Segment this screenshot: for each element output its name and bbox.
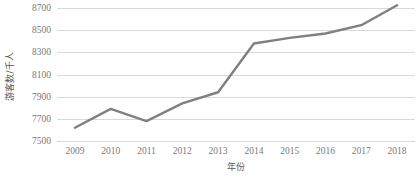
y-axis-tick-label: 8300 [32,47,51,57]
x-axis-tick-label: 2016 [316,145,335,157]
line-chart: 游客数/千人 7500770079008100830085008700 2009… [0,0,420,192]
x-axis-tick-label: 2010 [101,145,120,157]
x-axis-tick-label: 2009 [65,145,84,157]
series-line-tourists [75,5,397,127]
x-axis-tick-label: 2014 [244,145,263,157]
x-axis-title: 年份 [57,160,415,173]
x-axis-tick-labels: 2009201020112012201320142015201620172018 [57,145,415,159]
y-axis-tick-label: 7900 [32,92,51,102]
y-axis-tick-label: 7500 [32,136,51,146]
x-axis-tick-label: 2011 [137,145,156,157]
y-axis-tick-labels: 7500770079008100830085008700 [18,0,54,152]
x-axis-tick-label: 2013 [209,145,228,157]
x-axis-tick-label: 2017 [352,145,371,157]
y-axis-tick-label: 8700 [32,3,51,13]
y-axis-tick-label: 7700 [32,114,51,124]
x-axis-tick-label: 2015 [280,145,299,157]
y-axis-tick-label: 8100 [32,70,51,80]
x-axis-tick-label: 2012 [173,145,192,157]
y-axis-title: 游客数/千人 [0,0,18,152]
series-line-group [57,8,415,141]
plot-area [57,8,415,141]
y-axis-title-label: 游客数/千人 [3,52,16,100]
y-axis-tick-label: 8500 [32,25,51,35]
x-axis-line [57,141,415,142]
x-axis-tick-label: 2018 [388,145,407,157]
